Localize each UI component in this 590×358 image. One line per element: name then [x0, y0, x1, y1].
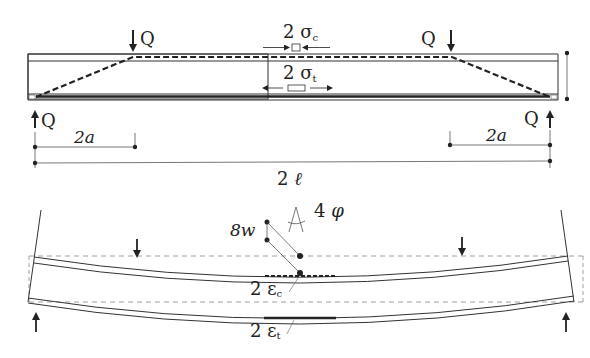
svg-text:8w: 8w [230, 220, 256, 240]
svg-text:4 φ: 4 φ [314, 200, 344, 221]
svg-text:Q: Q [41, 110, 56, 131]
stress-compression-label: 2 σc [263, 21, 330, 51]
svg-text:2 ℓ: 2 ℓ [277, 168, 302, 189]
dimension-2a-left: 2a [33, 127, 137, 168]
reaction-right: Q [524, 108, 550, 129]
strain-compression-label: 2 εc [250, 278, 298, 299]
dimension-total-span: 2 ℓ [33, 159, 552, 189]
stress-tension-label: 2 σt [265, 62, 330, 91]
svg-text:2 σt: 2 σt [283, 62, 317, 84]
svg-text:2 εc: 2 εc [250, 278, 283, 299]
load-left-top: Q [133, 28, 155, 49]
beam-diagram: Q Q Q Q 2 σc 2 σt 2a [0, 0, 590, 358]
height-dimension [565, 51, 569, 101]
stress-element-tension [288, 85, 305, 91]
svg-text:2 σc: 2 σc [283, 21, 318, 43]
load-right-top: Q [421, 28, 451, 49]
strain-tension-label: 2 εt [250, 320, 294, 341]
rotation-annotation: 4 φ [288, 200, 344, 232]
svg-text:2 εt: 2 εt [250, 320, 281, 341]
svg-text:Q: Q [140, 28, 155, 49]
svg-text:Q: Q [524, 108, 539, 129]
stress-element-compression [292, 44, 300, 51]
undeformed-reference [29, 256, 583, 302]
reaction-left: Q [35, 110, 56, 131]
deformed-bottom-face [28, 296, 574, 324]
svg-text:2a: 2a [485, 125, 507, 145]
deflection-annotation: 8w [230, 220, 303, 277]
deformed-top-face [34, 256, 568, 283]
svg-text:Q: Q [421, 28, 436, 49]
svg-text:2a: 2a [73, 127, 95, 147]
